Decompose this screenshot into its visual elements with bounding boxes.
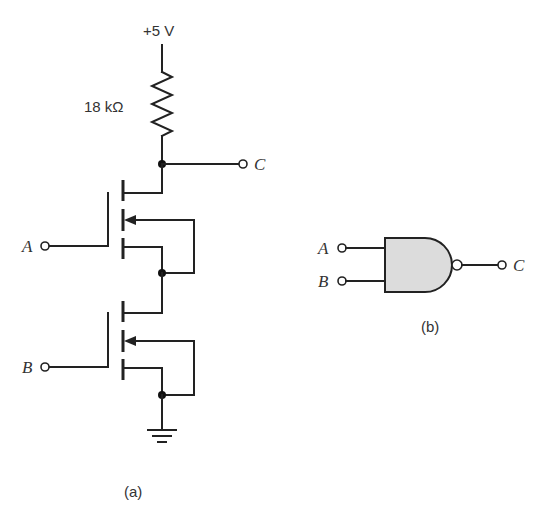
gate-output-c-label: C xyxy=(513,256,525,275)
resistor-icon xyxy=(152,72,172,136)
nand-gate-body-icon xyxy=(385,238,452,292)
output-terminal-c xyxy=(239,160,247,168)
resistor-value-label: 18 kΩ xyxy=(84,98,124,115)
ground-icon xyxy=(148,395,176,442)
gate-input-terminal-a xyxy=(338,244,346,252)
gate-b-wire xyxy=(49,313,108,367)
input-a-label: A xyxy=(21,237,33,256)
input-terminal-b xyxy=(41,363,49,371)
arrow-icon xyxy=(124,336,136,346)
nmos-nand-schematic: +5 V 18 kΩ C A xyxy=(21,22,266,500)
arrow-icon xyxy=(124,215,136,225)
drain-wire xyxy=(123,164,162,193)
input-b-label: B xyxy=(22,358,33,377)
caption-a: (a) xyxy=(124,483,142,500)
gate-output-terminal-c xyxy=(498,261,506,269)
gate-input-b-label: B xyxy=(318,272,329,291)
inversion-bubble-icon xyxy=(452,260,462,270)
gate-input-a-label: A xyxy=(317,239,329,258)
gate-a-wire xyxy=(49,193,108,246)
gate-input-terminal-b xyxy=(338,277,346,285)
source-wire xyxy=(123,368,194,395)
output-c-label: C xyxy=(254,155,266,174)
caption-b: (b) xyxy=(421,318,439,335)
nand-circuit-figure: +5 V 18 kΩ C A xyxy=(0,0,540,511)
input-terminal-a xyxy=(41,242,49,250)
drain-wire xyxy=(123,273,162,313)
source-wire xyxy=(123,247,194,273)
nmos-transistor-bottom xyxy=(49,273,194,399)
supply-voltage-label: +5 V xyxy=(143,22,174,39)
nmos-transistor-top xyxy=(49,164,194,277)
nand-gate-symbol: A B C (b) xyxy=(317,238,525,335)
